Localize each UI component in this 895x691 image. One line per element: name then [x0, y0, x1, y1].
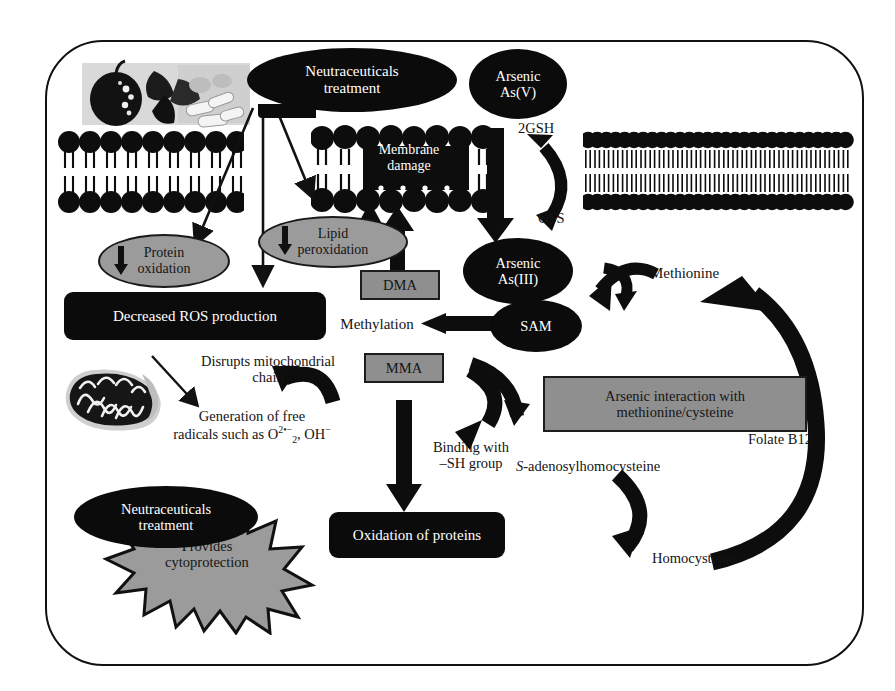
node-label-line2: As(V) — [500, 84, 536, 100]
node-membrane-damage: Membrane damage — [363, 136, 455, 180]
label-line1: Generation of free — [199, 408, 305, 424]
label-free-radicals: Generation of free radicals such as O2•−… — [142, 404, 362, 448]
node-label-line1: Lipid — [318, 226, 348, 242]
node-label-line1: Arsenic — [495, 255, 540, 271]
label-homocysteine: Homocysteine — [652, 547, 782, 569]
free-radicals-superscript: 2•− — [278, 424, 292, 435]
node-label-line1: Neutraceuticals — [305, 63, 398, 80]
node-label-line1: Arsenic — [495, 68, 540, 84]
label-line2: –SH group — [439, 455, 502, 471]
node-label-line1: Membrane — [379, 142, 440, 158]
label-line2: radicals such as O2•−2, OH− — [173, 424, 331, 445]
node-label-line2: damage — [387, 158, 431, 174]
node-tail-neutraceuticals — [258, 104, 316, 118]
node-arsenic-as-v[interactable]: Arsenic As(V) — [469, 49, 567, 119]
label-binding-sh-group: Binding with –SH group — [412, 434, 530, 476]
node-mma[interactable]: MMA — [364, 353, 444, 383]
node-label-line2: oxidation — [138, 261, 191, 277]
label-disrupts-mitochondrial-chain: Disrupts mitochondrial chain — [178, 348, 358, 390]
node-arsenic-interaction[interactable]: Arsenic interaction with methionine/cyst… — [543, 376, 807, 432]
node-label-line2: As(III) — [498, 271, 538, 287]
diagram-canvas: Neutraceuticals treatment Arsenic As(V) … — [0, 0, 895, 691]
node-label: MMA — [386, 360, 422, 376]
node-label-line1: Neutraceuticals — [121, 501, 211, 517]
node-label: SAM — [520, 318, 551, 334]
label-gss: GSS — [538, 208, 586, 228]
label-line2: cytoprotection — [165, 554, 249, 570]
down-arrow-icon-lipid — [277, 226, 293, 260]
node-label-line2: methionine/cysteine — [617, 404, 734, 420]
label-s-adenosylhomocysteine: S-adenosylhomocysteine — [516, 455, 706, 477]
fruits-and-capsules-photo — [82, 55, 250, 133]
node-label-line2: treatment — [139, 517, 194, 533]
node-label: Oxidation of proteins — [353, 527, 481, 544]
hydroxyl-superscript: − — [325, 424, 331, 435]
label-line1: Disrupts mitochondrial — [201, 353, 335, 369]
label-line1: Binding with — [433, 439, 509, 455]
label-methionine: Methionine — [650, 262, 760, 284]
lipid-bilayer-right — [583, 126, 855, 222]
down-arrow-icon-protein — [113, 246, 129, 280]
free-radicals-suffix: , OH — [297, 426, 325, 442]
node-label-line2: treatment — [324, 80, 381, 97]
node-label-line1: Protein — [144, 245, 184, 261]
node-neutraceuticals-treatment-bottom[interactable]: Neutraceuticals treatment — [74, 486, 258, 548]
label-rest: -adenosylhomocysteine — [523, 458, 660, 474]
node-dma[interactable]: DMA — [360, 270, 440, 300]
label-line2: chain — [252, 369, 283, 385]
node-decreased-ros-production[interactable]: Decreased ROS production — [64, 292, 326, 340]
node-label: Decreased ROS production — [113, 308, 277, 325]
node-arsenic-as-iii[interactable]: Arsenic As(III) — [463, 238, 573, 304]
node-neutraceuticals-treatment-top[interactable]: Neutraceuticals treatment — [247, 48, 457, 112]
node-oxidation-of-proteins[interactable]: Oxidation of proteins — [329, 512, 505, 558]
label-methylation: Methylation — [332, 313, 422, 335]
label-folate-b12: Folate B12 — [748, 428, 848, 450]
node-label: DMA — [383, 277, 417, 293]
label-2gsh: 2GSH — [518, 118, 574, 138]
lipid-bilayer-left — [58, 128, 244, 220]
node-sam[interactable]: SAM — [490, 300, 582, 352]
node-label-line1: Arsenic interaction with — [605, 388, 745, 404]
node-label-line2: peroxidation — [298, 242, 369, 258]
free-radicals-prefix: radicals such as O — [173, 426, 278, 442]
italic-s: S — [516, 458, 523, 474]
